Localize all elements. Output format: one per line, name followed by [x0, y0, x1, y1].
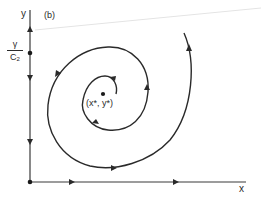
denominator-subscript: 2	[17, 56, 20, 62]
y-axis-up-arrow-icon	[27, 26, 33, 32]
y-axis-down-arrow-icon	[27, 75, 33, 81]
spiral-arrow-middle-up-icon	[144, 84, 150, 90]
origin-dot	[28, 180, 33, 185]
fraction-bar	[7, 50, 23, 51]
y-axis-marker-fraction: γ C2	[6, 40, 24, 64]
x-axis-right-arrow-icon	[69, 179, 75, 185]
spiral-arrow-inner-bottom-icon	[92, 119, 99, 124]
fraction-numerator: γ	[6, 40, 24, 49]
x-axis-right-arrow-icon-far	[173, 179, 179, 185]
panel-label: (b)	[44, 11, 55, 20]
y-axis-label: y	[21, 9, 26, 19]
fraction-denominator: C2	[6, 52, 24, 64]
y-axis-down-arrow-icon-lower	[27, 139, 33, 145]
spiral-arrow-bottom-right-icon	[111, 165, 117, 171]
spiral-arrow-outer-up-icon	[186, 44, 192, 51]
fixed-point-label: (x*, y*)	[86, 99, 113, 108]
scan-artifact-line	[35, 8, 261, 30]
phase-portrait-figure: y (b) x γ C2 (x*, y*)	[0, 0, 261, 199]
fixed-point-dot	[101, 92, 105, 96]
spiral-trajectory	[48, 33, 192, 168]
phase-portrait-svg	[0, 0, 261, 199]
x-axis-label: x	[239, 184, 244, 194]
y-axis-equilibrium-dot	[28, 51, 33, 56]
